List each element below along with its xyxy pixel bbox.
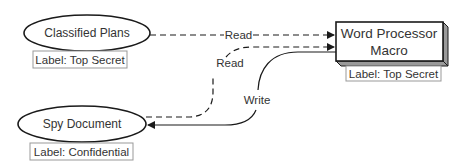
edge-label: Write [244, 94, 271, 106]
node-word-processor-macro: Word Processor Macro Label: Top Secret [336, 22, 448, 81]
information-flow-diagram: Classified Plans Label: Top Secret Spy D… [0, 0, 463, 165]
node-spy-document: Spy Document Label: Confidential [18, 106, 146, 160]
security-label: Label: Confidential [34, 146, 129, 158]
node-title-line2: Macro [370, 43, 408, 58]
edge-label: Read [225, 29, 253, 41]
node-title: Spy Document [43, 117, 122, 131]
security-label: Label: Top Secret [35, 54, 125, 66]
node-title-line1: Word Processor [341, 26, 438, 41]
edge-read-spy: Read [146, 47, 334, 117]
node-title: Classified Plans [44, 26, 129, 40]
edge-label: Read [216, 57, 244, 69]
node-classified-plans: Classified Plans Label: Top Secret [24, 15, 150, 68]
edge-read-classified: Read [150, 29, 334, 41]
security-label: Label: Top Secret [349, 68, 439, 80]
